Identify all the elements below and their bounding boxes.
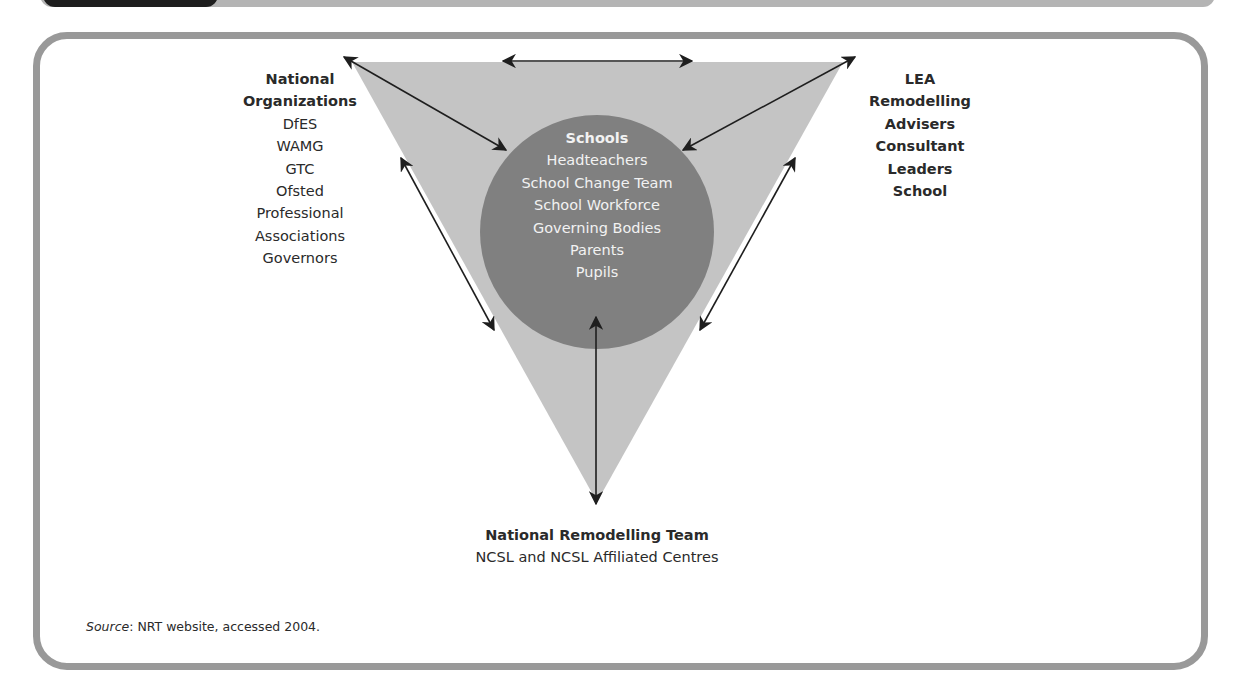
center-item: Parents	[477, 239, 717, 261]
left-title-line: National	[215, 68, 385, 90]
left-item: Governors	[215, 247, 385, 269]
left-item: Associations	[215, 225, 385, 247]
center-title: Schools	[477, 127, 717, 149]
left-item: Professional	[215, 202, 385, 224]
lea-label: LEA Remodelling Advisers Consultant Lead…	[860, 68, 980, 202]
right-line: Consultant	[860, 135, 980, 157]
schools-label: Schools Headteachers School Change Team …	[477, 127, 717, 284]
national-remodelling-team-label: National Remodelling Team NCSL and NCSL …	[397, 524, 797, 569]
center-item: Governing Bodies	[477, 217, 717, 239]
relationship-diagram	[0, 0, 1243, 692]
center-item: Pupils	[477, 261, 717, 283]
left-item: Ofsted	[215, 180, 385, 202]
right-line: School	[860, 180, 980, 202]
source-label: Source	[86, 619, 129, 634]
national-organizations-label: National Organizations DfES WAMG GTC Ofs…	[215, 68, 385, 270]
source-text: : NRT website, accessed 2004.	[129, 619, 320, 634]
left-item: DfES	[215, 113, 385, 135]
bottom-subtitle: NCSL and NCSL Affiliated Centres	[397, 546, 797, 568]
left-title-line: Organizations	[215, 90, 385, 112]
right-line: Leaders	[860, 158, 980, 180]
left-item: WAMG	[215, 135, 385, 157]
left-item: GTC	[215, 158, 385, 180]
right-line: LEA	[860, 68, 980, 90]
center-item: School Workforce	[477, 194, 717, 216]
source-caption: Source: NRT website, accessed 2004.	[86, 619, 320, 634]
right-line: Remodelling	[860, 90, 980, 112]
right-line: Advisers	[860, 113, 980, 135]
center-item: School Change Team	[477, 172, 717, 194]
bottom-title: National Remodelling Team	[397, 524, 797, 546]
center-item: Headteachers	[477, 149, 717, 171]
